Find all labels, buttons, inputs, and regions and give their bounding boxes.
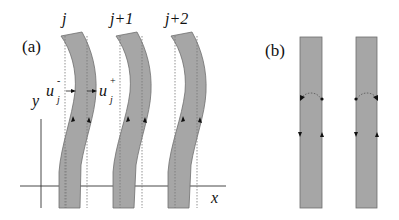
strip-label-j-plus-1: j+1	[108, 10, 133, 28]
figure: (a) j j+1 j+2 u j - u j + y x (b)	[0, 0, 399, 220]
axis-x-label: x	[210, 189, 218, 206]
axis-y-label: y	[30, 92, 40, 110]
strip-label-j: j	[60, 10, 67, 28]
strip-j	[59, 32, 96, 208]
u-minus-label: u	[46, 82, 54, 99]
strip-b-left	[298, 37, 324, 208]
panel-a: (a) j j+1 j+2 u j - u j + y x	[20, 10, 226, 208]
strip-j-body	[59, 32, 96, 208]
panel-b: (b)	[265, 37, 379, 208]
u-plus-sub: j	[108, 94, 113, 105]
strip-b-right-body	[356, 37, 377, 208]
u-plus-label: u	[99, 82, 107, 99]
strip-label-j-plus-2: j+2	[163, 10, 188, 28]
strip-b-left-dot	[320, 97, 323, 100]
strip-b-left-body	[300, 37, 322, 208]
panel-a-label: (a)	[22, 37, 41, 56]
u-plus-sup: +	[110, 75, 116, 86]
u-minus-sub: j	[55, 94, 60, 105]
u-minus-sup: -	[57, 75, 60, 86]
strip-b-right-dot	[354, 97, 357, 100]
panel-b-label: (b)	[265, 41, 285, 60]
strip-b-right	[354, 37, 379, 208]
